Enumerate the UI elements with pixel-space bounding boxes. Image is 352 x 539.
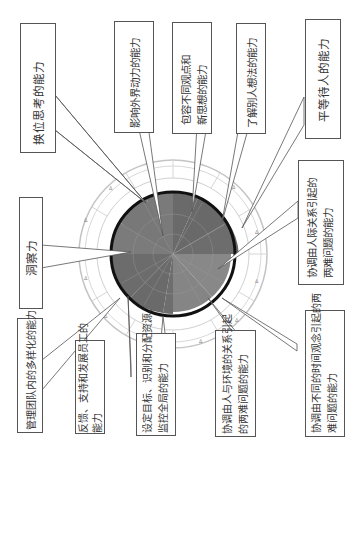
label-influence-external: 影响外界动力的能力 <box>128 38 143 128</box>
label-tolerance-line1: 包容不同观点和 <box>178 55 194 125</box>
label-box-understand-others: 了解别人想法的能力 <box>236 23 266 134</box>
svg-text:Δ: Δ <box>84 217 88 223</box>
label-box-team-diversity: 管理团队内的多样化的能力 <box>17 318 43 433</box>
label-feedback-line1: 反馈、支持和发展员工的 <box>77 323 91 433</box>
label-perspective-taking: 换位思考的能力 <box>32 61 47 145</box>
label-box-perspective-taking: 换位思考的能力 <box>20 23 56 153</box>
label-box-feedback-support: 反馈、支持和发展员工的 能力 <box>75 340 105 434</box>
svg-text:Δ: Δ <box>109 185 113 191</box>
label-interpersonal-line2: 两难问题的能力 <box>320 178 336 278</box>
label-environment-line1: 协调由人与环境的关系引起 <box>220 314 236 434</box>
label-interpersonal-line1: 协调由人际关系引起的 <box>304 178 320 278</box>
svg-text:Δ: Δ <box>84 275 88 281</box>
label-box-influence-external: 影响外界动力的能力 <box>114 21 154 133</box>
label-box-time-dilemma: 协调由不同的时间观念引起的两 难问题的能力 <box>305 310 345 437</box>
label-team-diversity: 管理团队内的多样化的能力 <box>24 310 39 430</box>
label-environment-line2: 的两难问题的能力 <box>236 314 252 434</box>
label-insight: 洞察力 <box>25 240 40 276</box>
label-box-goal-setting: 设定目标、识别和分配资源、 监控全局的能力 <box>136 333 176 436</box>
label-understand-others: 了解别人想法的能力 <box>245 38 260 128</box>
label-goal-line2: 监控全局的能力 <box>156 303 172 433</box>
svg-text:Δ: Δ <box>255 278 259 284</box>
label-feedback-line2: 能力 <box>91 323 105 433</box>
label-box-environment-dilemma: 协调由人与环境的关系引起 的两难问题的能力 <box>215 330 256 437</box>
svg-text:Δ: Δ <box>255 229 259 235</box>
label-box-insight: 洞察力 <box>19 197 43 309</box>
label-box-tolerance: 包容不同观点和 新思想的能力 <box>172 22 212 134</box>
label-equal-treatment: 平等待人的能力 <box>317 38 332 122</box>
label-goal-line1: 设定目标、识别和分配资源、 <box>140 303 156 433</box>
svg-text:Δ: Δ <box>199 338 203 344</box>
label-time-line1: 协调由不同的时间观念引起的两 <box>309 293 325 433</box>
label-box-equal-treatment: 平等待人的能力 <box>305 19 341 139</box>
label-tolerance-line2: 新思想的能力 <box>194 55 210 125</box>
label-time-line2: 难问题的能力 <box>325 293 341 433</box>
label-box-interpersonal-dilemma: 协调由人际关系引起的 两难问题的能力 <box>298 160 344 285</box>
